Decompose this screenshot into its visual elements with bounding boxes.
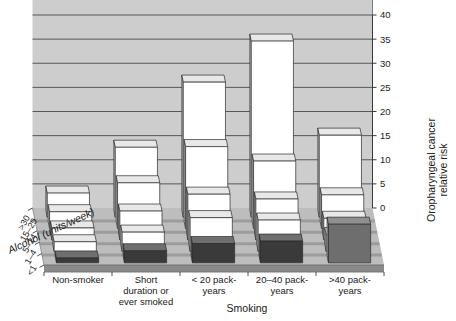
bar-top-face <box>327 217 371 224</box>
oropharyngeal-cancer-3d-bar-chart: 0510152025303540Oropharyngeal cancerrela… <box>0 0 456 321</box>
bar-top-face <box>186 187 230 194</box>
bar-4-0 <box>55 251 99 263</box>
value-axis-tick-label-35: 35 <box>380 34 391 45</box>
value-axis-tick-label-10: 10 <box>380 154 391 165</box>
bar-top-face <box>46 186 90 193</box>
bar-top-face <box>116 176 160 183</box>
value-axis-tick-label-20: 20 <box>380 106 391 117</box>
bar-top-face <box>254 192 298 199</box>
value-axis-tick-label-5: 5 <box>380 178 385 189</box>
y-axis-title-line1: Oropharyngeal cancer <box>425 118 437 222</box>
bar-4-3 <box>259 234 303 263</box>
x-category-label-3-1: years <box>270 285 293 296</box>
value-axis-tick-label-15: 15 <box>380 130 391 141</box>
bar-front-face <box>328 224 370 263</box>
x-category-label-4-0: >40 pack- <box>329 274 371 285</box>
bar-top-face <box>250 34 294 41</box>
bar-top-face <box>257 213 301 220</box>
bar-4-4 <box>327 217 371 263</box>
x-category-label-4-1: years <box>338 285 361 296</box>
bar-top-face <box>123 244 167 251</box>
bar-front-face <box>260 241 302 263</box>
bar-top-face <box>318 128 362 135</box>
bar-top-face <box>191 236 235 243</box>
bar-front-face <box>54 242 96 252</box>
bar-top-face <box>121 225 165 232</box>
floor-front-skirt <box>44 265 384 272</box>
bar-top-face <box>114 140 158 147</box>
bar-top-face <box>53 235 97 242</box>
bar-4-2 <box>191 236 235 262</box>
x-category-label-0-0: Non-smoker <box>52 274 104 285</box>
bar-top-face <box>189 211 233 218</box>
bar-top-face <box>184 140 228 147</box>
value-axis-tick-label-25: 25 <box>380 82 391 93</box>
bar-top-face <box>320 188 364 195</box>
chart-container: 0510152025303540Oropharyngeal cancerrela… <box>0 0 456 321</box>
x-category-label-1-0: Short <box>135 274 158 285</box>
bar-top-face <box>182 75 226 82</box>
bar-3-0 <box>53 235 97 252</box>
value-axis-tick-label-0: 0 <box>380 202 385 213</box>
x-category-label-2-0: < 20 pack- <box>192 274 237 285</box>
y-axis-title-line2: relative risk <box>437 143 449 197</box>
bar-4-1 <box>123 244 167 263</box>
value-axis-tick-label-40: 40 <box>380 9 391 20</box>
x-category-label-2-1: years <box>202 285 225 296</box>
value-axis-tick-label-30: 30 <box>380 58 391 69</box>
chart-scene <box>28 0 384 276</box>
x-axis-title: Smoking <box>227 302 268 314</box>
x-category-label-1-1: duration or <box>123 285 168 296</box>
bar-top-face <box>55 251 99 258</box>
bar-top-face <box>252 154 296 161</box>
bar-front-face <box>124 251 166 263</box>
x-category-label-1-2: ever smoked <box>119 296 173 307</box>
bar-top-face <box>259 234 303 241</box>
bar-top-face <box>118 204 162 211</box>
x-category-label-3-0: 20–40 pack- <box>256 274 308 285</box>
bar-front-face <box>192 244 234 263</box>
bar-front-face <box>56 258 98 263</box>
